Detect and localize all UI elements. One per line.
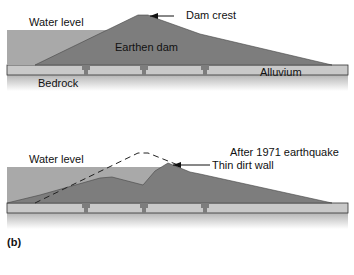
earthen-dam-label: Earthen dam xyxy=(115,42,178,53)
alluvium-label: Alluvium xyxy=(260,67,302,78)
water-level-label: Water level xyxy=(29,17,84,28)
thin-dirt-wall-label: Thin dirt wall xyxy=(212,160,274,171)
panel-id-label: (b) xyxy=(7,237,21,248)
water-level-label-b: Water level xyxy=(29,154,84,165)
bedrock-label: Bedrock xyxy=(38,78,78,89)
after-earthquake-caption: After 1971 earthquake xyxy=(230,147,339,158)
dam-crest-label: Dam crest xyxy=(186,10,236,21)
alluvium-layer-b xyxy=(7,203,348,213)
bedrock-layer-b xyxy=(7,213,348,229)
